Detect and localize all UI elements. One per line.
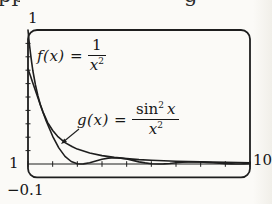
f-numerator: 1 xyxy=(88,37,106,56)
f-formula-label: f(x) = 1 x2 xyxy=(37,37,106,74)
x-max-label: 10 xyxy=(253,151,272,169)
f-denominator: x2 xyxy=(88,56,106,74)
g-fraction: sin2 x x2 xyxy=(132,101,179,138)
f-fraction: 1 x2 xyxy=(88,37,106,74)
g-prefix: g(x) = xyxy=(77,111,127,129)
f-prefix: f(x) = xyxy=(37,47,83,65)
g-formula-label: g(x) = sin2 x x2 xyxy=(77,101,179,138)
y-min-label: −0.1 xyxy=(7,181,43,199)
figure-page: pp g 1 1 10 −0.1 f(x) = 1 x2 g(x) = sin2… xyxy=(0,0,272,204)
y-max-label: 1 xyxy=(28,9,38,27)
x-min-label: 1 xyxy=(9,154,19,172)
g-denominator: x2 xyxy=(132,120,179,138)
g-numerator: sin2 x xyxy=(132,101,179,120)
